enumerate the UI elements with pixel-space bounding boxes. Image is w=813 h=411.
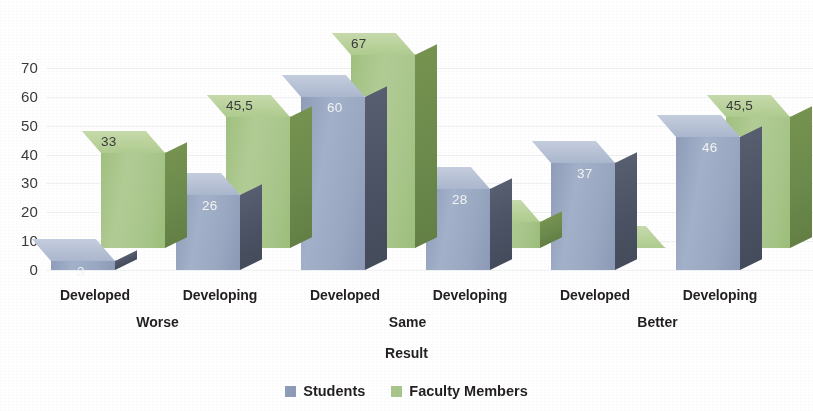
x-axis-tick-label: Developing [405,287,535,303]
bar-side-face [740,127,762,270]
y-axis-tick-label: 40 [0,147,38,162]
bar-side-face [165,142,187,248]
chart-legend: StudentsFaculty Members [0,383,813,399]
bar-side-face [290,106,312,248]
y-axis-tick-label: 60 [0,89,38,104]
bar-data-label: 3 [77,265,85,279]
bar-column [101,153,165,248]
x-axis-group-label: Worse [48,314,268,330]
y-axis-tick-label: 70 [0,60,38,75]
plot-area: 45,546037928676045,526333 [46,0,813,283]
bar-data-label: 26 [202,199,217,213]
bar-data-label: 28 [452,193,467,207]
x-axis-tick-label: Developed [530,287,660,303]
y-axis-tick-label: 0 [0,262,38,277]
bar-data-label: 33 [101,135,116,149]
bar-side-face [415,44,437,248]
legend-label: Faculty Members [409,383,527,399]
bar-front-face [676,136,741,270]
legend-swatch-icon [391,386,402,397]
y-axis-tick-label: 10 [0,233,38,248]
x-axis-tick-label: Developed [280,287,410,303]
legend-label: Students [303,383,365,399]
bar-data-label: 45,5 [226,99,253,113]
x-axis-title: Result [0,345,813,361]
y-axis-tick-label: 50 [0,118,38,133]
chart-3d-column: 45,546037928676045,526333 01020304050607… [0,0,813,411]
bar-data-label: 45,5 [726,99,753,113]
bar-side-face [615,153,637,270]
bar-data-label: 67 [351,37,366,51]
x-axis-tick-label: Developing [655,287,785,303]
bar-side-face [790,106,812,248]
legend-swatch-icon [285,386,296,397]
bar-data-label: 37 [577,167,592,181]
legend-item[interactable]: Faculty Members [391,383,527,399]
bar-front-face [101,152,166,248]
bar-data-label: 60 [327,101,342,115]
x-axis-tick-label: Developed [30,287,160,303]
bar-side-face [365,86,387,270]
x-axis-group-label: Better [548,314,768,330]
y-axis-tick-label: 20 [0,204,38,219]
y-axis-tick-label: 30 [0,175,38,190]
bar-side-face [240,184,262,270]
legend-item[interactable]: Students [285,383,365,399]
x-axis-group-label: Same [298,314,518,330]
bar-data-label: 46 [702,141,717,155]
x-axis-tick-label: Developing [155,287,285,303]
bar-side-face [490,178,512,270]
bar-column [676,137,740,270]
